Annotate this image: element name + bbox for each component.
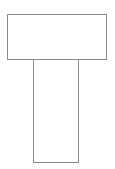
stem-rectangle <box>33 59 79 163</box>
top-bar-rectangle <box>7 14 107 60</box>
